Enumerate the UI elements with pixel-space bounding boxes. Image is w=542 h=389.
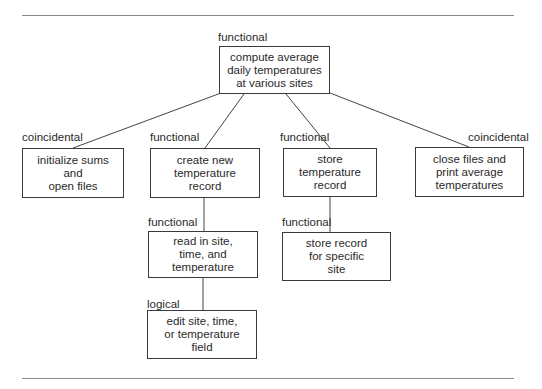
cohesion-label-create: functional [150, 131, 199, 144]
cohesion-label-store: functional [280, 131, 329, 144]
module-create-record: create new temperature record [150, 148, 260, 198]
cohesion-label-close: coincidental [468, 131, 529, 144]
module-compute-average: compute average daily temperatures at va… [219, 46, 330, 94]
module-read-input: read in site, time, and temperature [148, 231, 258, 278]
module-edit-fields: edit site, time, or temperature field [147, 310, 257, 359]
cohesion-label-init: coincidental [22, 131, 83, 144]
cohesion-label-storesite: functional [282, 216, 331, 229]
module-store-site: store record for specific site [282, 232, 391, 281]
cohesion-label-read: functional [148, 216, 197, 229]
module-store-record: store temperature record [283, 148, 377, 197]
module-initialize: initialize sums and open files [22, 148, 124, 198]
module-close-files: close files and print average temperatur… [415, 147, 524, 197]
cohesion-label-root: functional [218, 31, 267, 44]
